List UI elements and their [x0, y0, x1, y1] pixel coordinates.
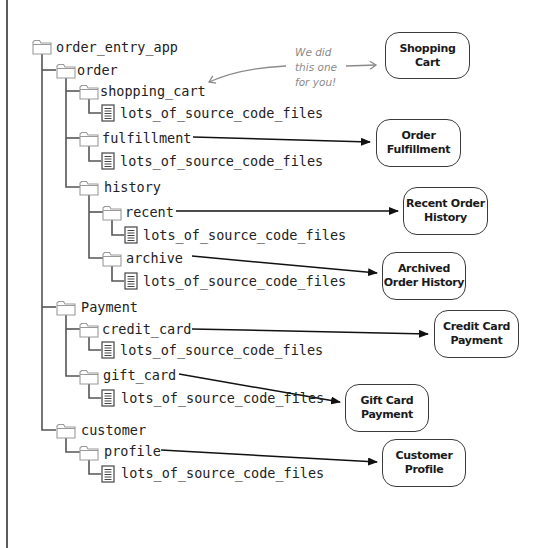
file-icon: [125, 273, 137, 289]
component-label-line2: Fulfillment: [387, 143, 450, 157]
component-credit-card-payment: Credit CardPayment: [434, 310, 519, 358]
tree-folder-fulfillment: fulfillment: [102, 130, 191, 146]
component-label-line2: History: [406, 211, 485, 225]
component-recent-order-history: Recent OrderHistory: [403, 187, 488, 235]
component-archived-order-history: ArchivedOrder History: [382, 252, 466, 300]
arrow-archive: [192, 256, 377, 273]
annotation-line-1: We did: [295, 45, 337, 60]
component-order-fulfillment: OrderFulfillment: [376, 119, 461, 167]
file-icon: [125, 227, 137, 243]
annotation-arrow-left: [209, 66, 286, 82]
component-label-line2: Profile: [395, 463, 452, 477]
component-label-line1: Credit Card: [443, 320, 510, 334]
tree-folder-order: order: [77, 62, 118, 78]
component-label-line1: Order: [387, 129, 450, 143]
tree-file-gift-card: lots_of_source_code_files: [121, 390, 324, 406]
diagram-canvas: order_entry_app order shopping_cart lots…: [0, 0, 546, 548]
component-shopping-cart: ShoppingCart: [385, 32, 470, 79]
file-icon: [102, 342, 114, 358]
annotation-line-2: this one: [295, 60, 337, 75]
tree-folder-archive: archive: [126, 250, 183, 266]
component-label-line1: Recent Order: [406, 197, 485, 211]
file-icon: [102, 466, 114, 482]
tree-folder-payment: Payment: [81, 299, 138, 315]
file-icon: [102, 105, 114, 121]
component-label-line1: Customer: [395, 449, 452, 463]
tree-folder-recent: recent: [125, 204, 174, 220]
file-icon: [102, 153, 114, 169]
folder-icon: [80, 182, 98, 196]
component-customer-profile: CustomerProfile: [382, 439, 466, 487]
folder-icon: [80, 447, 98, 461]
tree-file-archive: lots_of_source_code_files: [143, 273, 346, 289]
arrow-profile: [161, 450, 377, 462]
folder-icon: [80, 371, 98, 385]
component-label-line2: Payment: [443, 334, 510, 348]
tree-file-profile: lots_of_source_code_files: [121, 465, 324, 481]
folder-icon: [57, 65, 75, 79]
tree-file-fulfillment: lots_of_source_code_files: [120, 153, 323, 169]
component-label-line2: Cart: [399, 56, 455, 70]
annotation-line-3: for you!: [295, 75, 337, 90]
folder-icon: [103, 207, 121, 221]
folder-icon: [57, 425, 75, 439]
component-label-line1: Archived: [384, 262, 464, 276]
tree-folder-shopping-cart: shopping_cart: [100, 83, 206, 99]
file-icon: [102, 390, 114, 406]
tree-folder-gift-card: gift_card: [103, 367, 176, 383]
folder-icon: [33, 41, 51, 55]
folder-icon: [57, 302, 75, 316]
component-label-line2: Payment: [361, 408, 414, 422]
tree-folder-history: history: [104, 179, 161, 195]
tree-file-recent: lots_of_source_code_files: [143, 227, 346, 243]
component-gift-card-payment: Gift CardPayment: [345, 384, 429, 432]
folder-icon: [80, 133, 98, 147]
annotation-arrow-right: [346, 65, 376, 66]
tree-file-credit-card: lots_of_source_code_files: [120, 342, 323, 358]
tree-folder-credit-card: credit_card: [102, 321, 191, 337]
folder-icon: [80, 324, 98, 338]
arrow-fulfillment: [193, 137, 370, 142]
tree-folder-customer: customer: [81, 422, 146, 438]
arrow-credit-card: [192, 329, 428, 334]
tree-file-shopping-cart: lots_of_source_code_files: [120, 105, 323, 121]
tree-folder-profile: profile: [104, 443, 161, 459]
annotation-note: We did this one for you!: [295, 45, 337, 90]
folder-icon: [80, 86, 98, 100]
component-label-line2: Order History: [384, 276, 464, 290]
tree-root-label: order_entry_app: [56, 39, 178, 55]
folder-icon: [103, 253, 121, 267]
component-label-line1: Shopping: [399, 42, 455, 56]
component-label-line1: Gift Card: [361, 394, 414, 408]
